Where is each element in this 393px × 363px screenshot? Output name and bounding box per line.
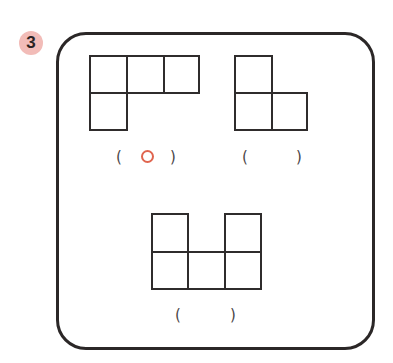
square-cell: [187, 251, 226, 290]
shape-1-figure: [89, 55, 200, 131]
square-cell: [163, 55, 200, 94]
square-cell: [224, 213, 262, 253]
square-cell: [234, 55, 273, 94]
shape-3-figure: [151, 213, 262, 290]
square-cell: [151, 213, 189, 253]
answer-1-close-paren: ): [170, 146, 176, 166]
square-cell: [224, 251, 262, 290]
square-cell: [151, 251, 189, 290]
answer-2-close-paren: ): [296, 146, 302, 166]
square-cell: [89, 92, 128, 131]
answer-3-close-paren: ): [230, 304, 236, 324]
answer-3-open-paren: (: [175, 304, 181, 324]
answer-1-open-paren: (: [116, 146, 122, 166]
answer-2-open-paren: (: [242, 146, 248, 166]
square-cell: [89, 55, 128, 94]
square-cell: [271, 92, 308, 131]
square-cell: [126, 55, 165, 94]
shape-2-figure: [234, 55, 308, 131]
answer-1-circle-mark[interactable]: [141, 150, 154, 163]
problem-number-badge: 3: [19, 31, 43, 55]
square-cell: [234, 92, 273, 131]
